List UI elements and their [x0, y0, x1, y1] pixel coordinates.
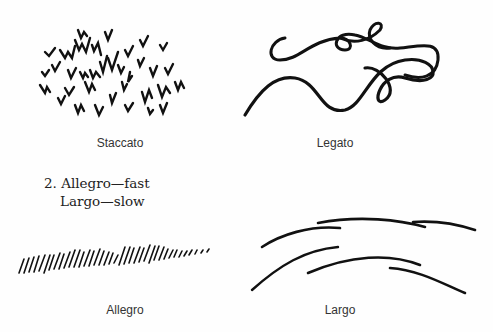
staccato-marks-icon	[30, 10, 190, 125]
largo-arcs-icon	[250, 200, 485, 295]
legato-ribbon-icon	[240, 10, 450, 120]
caption-largo: Largo	[320, 303, 360, 317]
illustration-page: Staccato Legato 2. Allegro—fast Largo—sl…	[0, 0, 493, 332]
heading-line-2: Largo—slow	[60, 193, 145, 210]
caption-allegro: Allegro	[100, 303, 150, 317]
heading-line-1: 2. Allegro—fast	[44, 175, 150, 192]
allegro-strokes-icon	[15, 235, 215, 280]
caption-staccato: Staccato	[85, 136, 155, 150]
caption-legato: Legato	[305, 136, 365, 150]
